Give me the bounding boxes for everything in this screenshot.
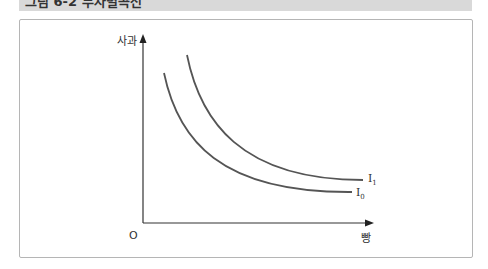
indifference-curve-i0 [164,73,352,192]
axes [140,34,375,227]
x-axis-label: 빵 [361,229,371,245]
origin-label: O [129,229,138,242]
y-axis-arrow-icon [140,34,147,43]
curve-label-i1: I1 [368,172,377,187]
indifference-curve-diagram [0,0,488,269]
indifference-curve-i1 [187,55,363,180]
y-axis-label: 사과 [117,32,137,48]
x-axis-arrow-icon [365,220,374,227]
curve-label-i0: I0 [356,186,365,201]
